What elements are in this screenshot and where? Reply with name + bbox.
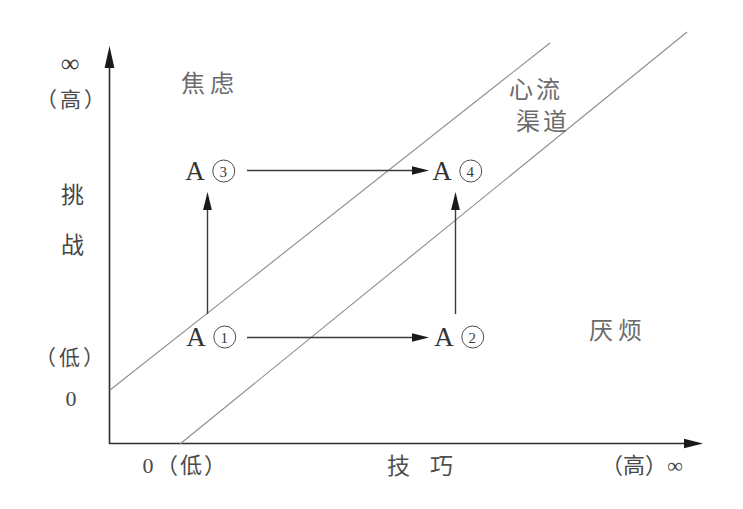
region-label-anxiety: 焦虑 — [181, 72, 239, 96]
point-a3-circled-number: 3 — [212, 160, 235, 183]
arrow-a1-a2-head-icon — [412, 333, 429, 341]
point-a4: A 4 — [432, 158, 482, 185]
y-axis-title: 挑战 — [59, 183, 82, 283]
y-axis-origin-label: 0 — [66, 388, 77, 410]
point-a2: A 2 — [434, 324, 484, 351]
point-a4-circled-number: 4 — [459, 160, 482, 183]
x-axis-arrowhead-icon — [684, 439, 703, 449]
arrow-a1-a3-head-icon — [203, 192, 212, 210]
y-axis-high-label: （高） — [36, 90, 108, 111]
y-axis-low-label: （低） — [35, 348, 107, 369]
flow-channel-lower-line — [180, 32, 687, 444]
y-axis-arrowhead-icon — [105, 46, 115, 68]
point-a4-letter: A — [432, 158, 452, 185]
region-label-boredom: 厌烦 — [589, 319, 647, 343]
arrow-a2-a4-head-icon — [451, 192, 460, 210]
diagram-canvas — [0, 0, 743, 509]
point-a3-letter: A — [185, 158, 205, 185]
arrow-a3-a4-head-icon — [412, 166, 429, 174]
x-axis-high-label: （高）∞ — [601, 455, 683, 477]
y-axis-infinity-symbol: ∞ — [61, 51, 80, 77]
region-label-flow-channel-line1: 心流 — [509, 78, 563, 102]
point-a2-letter: A — [434, 324, 454, 351]
point-a2-circled-number: 2 — [461, 326, 484, 349]
point-a3: A 3 — [185, 158, 235, 185]
x-axis-title: 技 巧 — [387, 455, 453, 478]
point-a1: A 1 — [186, 324, 236, 351]
x-axis-origin-label: 0（低） — [143, 455, 228, 477]
flow-channel-diagram: ∞ （高） 挑战 （低） 0 0（低） 技 巧 （高）∞ 焦虑 心流 渠道 厌烦… — [0, 0, 743, 509]
point-a1-letter: A — [186, 324, 206, 351]
point-a1-circled-number: 1 — [213, 326, 236, 349]
region-label-flow-channel-line2: 渠道 — [516, 110, 570, 134]
